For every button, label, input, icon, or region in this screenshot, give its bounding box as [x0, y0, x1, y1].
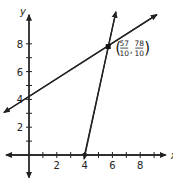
svg-text:): ) — [144, 39, 150, 57]
coordinate-plane: 24682468xy(5710,7810) — [0, 0, 173, 178]
x-tick-label: 2 — [54, 160, 60, 171]
svg-text:10: 10 — [119, 49, 129, 58]
intersection-label: (5710,7810) — [115, 39, 150, 58]
svg-text:78: 78 — [134, 39, 144, 48]
y-axis-label: y — [19, 6, 27, 17]
intersection-point — [106, 44, 111, 49]
svg-text:,: , — [130, 45, 133, 55]
y-tick-label: 4 — [17, 94, 23, 105]
y-tick-label: 2 — [17, 122, 23, 133]
y-tick-label: 6 — [17, 67, 23, 78]
svg-text:10: 10 — [134, 49, 144, 58]
labels: 24682468xy(5710,7810) — [17, 6, 173, 171]
x-axis-label: x — [170, 150, 173, 161]
svg-text:57: 57 — [119, 39, 129, 48]
x-tick-label: 6 — [109, 160, 115, 171]
x-tick-label: 8 — [137, 160, 143, 171]
y-tick-label: 8 — [17, 39, 23, 50]
x-tick-label: 4 — [81, 160, 87, 171]
